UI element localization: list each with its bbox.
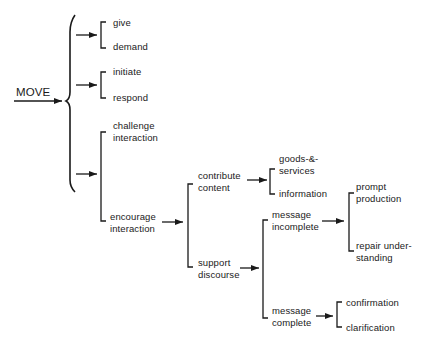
label-clarification: clarification xyxy=(346,322,395,334)
line-2: standing xyxy=(356,252,412,264)
line-1: goods-&- xyxy=(279,153,318,165)
line-1: encourage xyxy=(110,211,156,223)
label-move: MOVE xyxy=(16,86,50,98)
line-2: interaction xyxy=(113,132,158,144)
line-2: complete xyxy=(272,317,311,329)
label-repair-understanding: repair under- standing xyxy=(356,240,412,264)
label-message-complete: message complete xyxy=(272,305,311,329)
label-challenge-interaction: challenge interaction xyxy=(113,120,158,144)
label-support-discourse: support discourse xyxy=(198,257,240,281)
label-initiate: initiate xyxy=(113,66,141,78)
line-2: discourse xyxy=(198,269,240,281)
label-contribute-content: contribute content xyxy=(198,170,241,194)
line-2: incomplete xyxy=(272,221,319,233)
label-give: give xyxy=(113,17,131,29)
line-2: services xyxy=(279,165,318,177)
line-1: contribute xyxy=(198,170,241,182)
line-2: content xyxy=(198,182,241,194)
line-2: interaction xyxy=(110,223,156,235)
label-demand: demand xyxy=(113,41,148,53)
label-respond: respond xyxy=(113,92,148,104)
line-1: repair under- xyxy=(356,240,412,252)
label-goods-services: goods-&- services xyxy=(279,153,318,177)
line-1: challenge xyxy=(113,120,158,132)
label-prompt-production: prompt production xyxy=(356,181,401,205)
line-1: message xyxy=(272,305,311,317)
label-information: information xyxy=(279,188,327,200)
label-message-incomplete: message incomplete xyxy=(272,209,319,233)
line-2: production xyxy=(356,193,401,205)
label-encourage-interaction: encourage interaction xyxy=(110,211,156,235)
line-1: prompt xyxy=(356,181,401,193)
and-brace xyxy=(66,15,75,192)
line-1: support xyxy=(198,257,240,269)
label-confirmation: confirmation xyxy=(346,297,399,309)
line-1: message xyxy=(272,209,319,221)
